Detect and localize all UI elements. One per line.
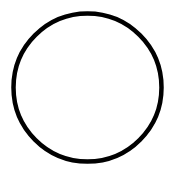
pie-chart-svg [0,0,173,176]
pie-outline [14,14,162,162]
pie-chart [0,0,173,176]
